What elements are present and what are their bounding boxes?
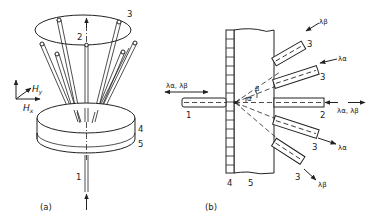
label-2: 2 — [77, 32, 82, 42]
output-fiber-lower-outer — [272, 138, 305, 164]
label-4: 4 — [138, 124, 143, 134]
panel-a: 3 2 4 5 1 (a) Hy Hx — [16, 9, 143, 212]
substrate-5 — [234, 29, 274, 174]
label-1: 1 — [76, 172, 81, 182]
label-b-4: 4 — [227, 178, 232, 188]
label-b-1: 1 — [186, 110, 191, 120]
disk-layers — [37, 103, 135, 160]
label-5: 5 — [138, 139, 143, 149]
angle-alpha: α — [247, 95, 252, 103]
wl-upper-inner: λα — [338, 55, 347, 63]
output-fiber-upper-inner — [273, 66, 320, 89]
wl-lower-outer: λβ — [318, 181, 327, 189]
wl-upper-outer: λβ — [319, 18, 328, 26]
label-b-3a: 3 — [307, 39, 312, 49]
label-b-3b: 3 — [320, 72, 325, 82]
caption-b: (b) — [205, 202, 217, 212]
caption-a: (a) — [40, 202, 52, 212]
output-fiber-upper-outer — [272, 41, 306, 66]
label-b-5: 5 — [248, 178, 253, 188]
label-3: 3 — [127, 9, 132, 19]
axes-triad: Hy Hx — [16, 80, 43, 114]
wl-lower-inner: λα — [338, 144, 347, 152]
panel-b: β α λα, — [165, 18, 365, 212]
axis-hy: Hy — [32, 84, 43, 96]
output-fiber-lower-inner — [273, 116, 320, 139]
label-b-2: 2 — [320, 110, 325, 120]
fiber-ring-top — [35, 15, 131, 45]
grating-4 — [226, 30, 234, 173]
wl-input: λα, λβ — [166, 82, 188, 90]
fiber-demultiplexer-figure: 3 2 4 5 1 (a) Hy Hx — [0, 0, 377, 221]
axis-hx: Hx — [23, 103, 34, 114]
label-b-3d: 3 — [295, 172, 300, 182]
wl-through: λα, λβ — [337, 107, 359, 115]
label-b-3c: 3 — [312, 142, 317, 152]
angle-beta: β — [255, 85, 259, 93]
